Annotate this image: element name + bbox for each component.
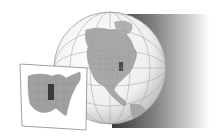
highlighted-state-globe: [119, 62, 123, 71]
highlighted-state-inset: [48, 84, 54, 100]
locator-map-figure: [0, 0, 219, 139]
inset-map: [20, 64, 87, 130]
